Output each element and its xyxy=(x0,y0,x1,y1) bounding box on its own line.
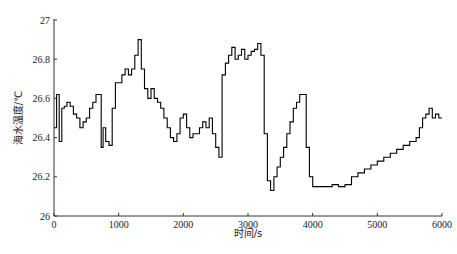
x-tick-label: 4000 xyxy=(303,219,323,230)
chart: 2626.226.426.626.827 0100020003000400050… xyxy=(0,0,457,254)
y-tick-label: 26.4 xyxy=(33,132,51,143)
x-tick-label: 1000 xyxy=(109,219,129,230)
y-tick-label: 26.2 xyxy=(33,171,51,182)
x-axis-label: 时间/s xyxy=(234,227,263,239)
temperature-line xyxy=(54,40,442,191)
y-tick-label: 26 xyxy=(40,211,50,222)
y-tick-label: 26.6 xyxy=(33,93,51,104)
y-axis: 2626.226.426.626.827 xyxy=(33,15,58,222)
x-tick-label: 2000 xyxy=(173,219,193,230)
y-axis-label: 海水温度/℃ xyxy=(12,91,24,146)
y-tick-label: 27 xyxy=(40,15,50,26)
y-tick-label: 26.8 xyxy=(33,54,51,65)
x-tick-label: 0 xyxy=(52,219,57,230)
x-tick-label: 6000 xyxy=(432,219,452,230)
x-tick-label: 5000 xyxy=(367,219,387,230)
plot-area xyxy=(54,40,442,191)
